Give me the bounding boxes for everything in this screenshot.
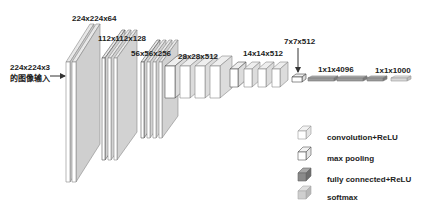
legend-pool-icon	[298, 147, 311, 160]
legend-softmax-label: softmax	[327, 193, 358, 202]
fc-layer	[367, 76, 387, 81]
fc-label-2: 1x1x1000	[375, 66, 411, 75]
fc-label-1: 1x1x4096	[318, 65, 354, 74]
conv-layer	[272, 62, 288, 87]
fc-layer	[337, 76, 367, 81]
legend-fc-label: fully connected+ReLU	[327, 175, 411, 184]
pool-layer	[230, 62, 246, 87]
vgg-diagram: 224x224x3 的图像输入 224x224x64 112x112x128 5…	[0, 0, 424, 215]
stage-label-6: 7x7x512	[284, 37, 316, 46]
pool-layer	[292, 74, 306, 82]
legend-softmax-icon	[298, 186, 311, 199]
legend-fc-icon	[298, 168, 311, 181]
input-desc-label: 的图像输入	[10, 73, 50, 83]
softmax-layer	[391, 76, 411, 81]
stage-label-3: 56x56x256	[131, 49, 172, 58]
fc-layer	[308, 76, 338, 81]
legend-conv-icon	[298, 126, 311, 139]
stage-label-2: 112x112x128	[98, 34, 147, 43]
legend-conv-label: convolution+ReLU	[327, 133, 398, 142]
stage-label-5: 14x14x512	[243, 49, 284, 58]
conv-layer	[258, 62, 274, 87]
stage-label-1: 224x224x64	[72, 14, 117, 23]
stage-label-4: 28x28x512	[178, 52, 219, 61]
legend-pool-label: max pooling	[327, 154, 374, 163]
legend: convolution+ReLU max pooling fully conne…	[298, 126, 411, 202]
input-size-label: 224x224x3	[10, 63, 51, 72]
conv-layer	[244, 62, 260, 87]
